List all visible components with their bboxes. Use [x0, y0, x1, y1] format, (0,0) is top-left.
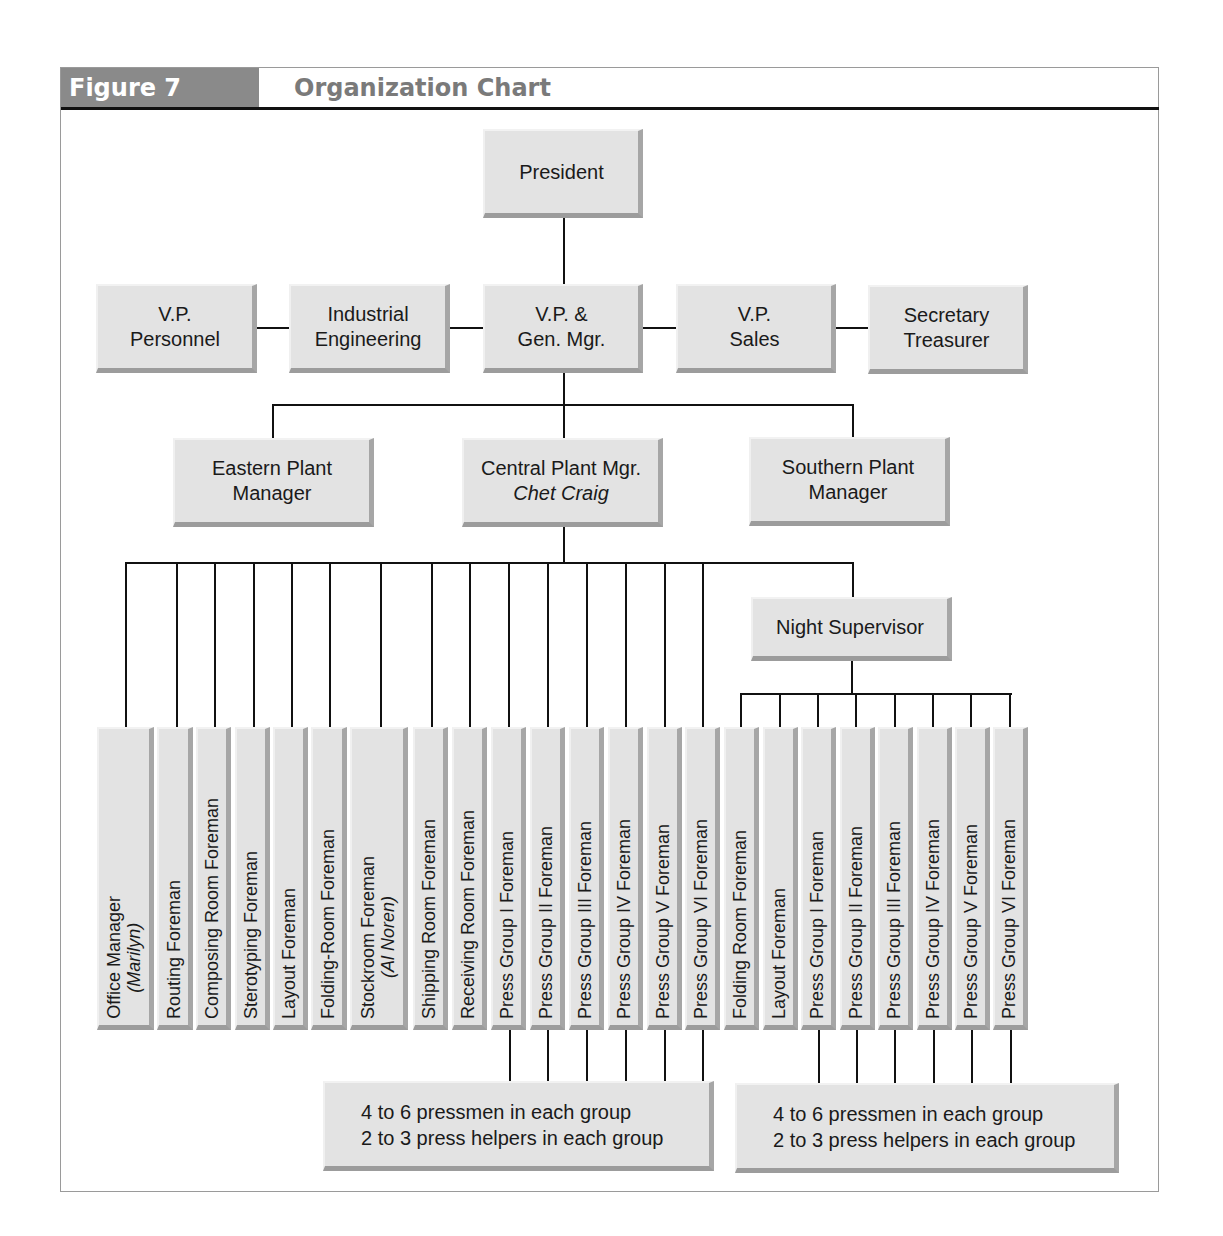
connector-foreman-12 [586, 562, 588, 728]
foreman-label: Press Group I Foreman [497, 831, 517, 1019]
day-press-crew-note: 4 to 6 pressmen in each group2 to 3 pres… [323, 1081, 714, 1171]
night-foreman-box-press-group-5: Press Group V Foreman [955, 727, 990, 1030]
connector-foreman-13 [625, 562, 627, 728]
foreman-box-folding-room: Folding-Room Foreman [311, 727, 347, 1030]
foreman-box-receiving-room: Receiving Room Foreman [452, 727, 487, 1030]
connector-pg3-note [586, 1030, 588, 1082]
header-rule [61, 107, 1159, 110]
night-foreman-label: Press Group II Foreman [846, 826, 866, 1019]
connector-night-foreman-4 [855, 693, 857, 728]
foreman-label: Routing Foreman [164, 880, 184, 1019]
vp-gen-mgr-line1: V.P. & [518, 302, 606, 327]
night-supervisor-box: Night Supervisor [751, 597, 952, 661]
night-foreman-label: Press Group VI Foreman [999, 819, 1019, 1019]
night-foreman-box-folding-room: Folding Room Foreman [724, 727, 759, 1030]
night-foreman-label: Press Group I Foreman [807, 831, 827, 1019]
foreman-label: Press Group IV Foreman [614, 819, 634, 1019]
connector-sales-secretary [836, 327, 868, 329]
connector-foreman-14 [664, 562, 666, 728]
connector-npg5-note [971, 1030, 973, 1083]
foreman-box-composing-room: Composing Room Foreman [196, 727, 231, 1030]
vp-sales-box: V.P.Sales [676, 284, 836, 373]
foreman-box-layout: Layout Foreman [273, 727, 308, 1030]
foreman-box-office-manager: Office Manager(Marilyn) [97, 727, 154, 1030]
connector-eastern [272, 404, 274, 439]
connector-foreman-11 [547, 562, 549, 728]
southern-plant-line2: Manager [782, 480, 914, 505]
connector-vp-plants-stem [563, 373, 565, 439]
night-foreman-box-press-group-1: Press Group I Foreman [801, 727, 836, 1030]
vp-gen-mgr-box: V.P. &Gen. Mgr. [483, 284, 643, 373]
connector-foreman-1 [125, 562, 127, 728]
foreman-title: Office Manager [104, 896, 124, 1019]
industrial-engineering-box: IndustrialEngineering [289, 284, 450, 373]
connector-foreman-15 [702, 562, 704, 728]
foreman-label: Folding-Room Foreman [318, 829, 338, 1019]
southern-plant-box: Southern PlantManager [749, 437, 950, 526]
foreman-box-press-group-1: Press Group I Foreman [491, 727, 526, 1030]
connector-pg5-note [664, 1030, 666, 1082]
connector-npg1-note [818, 1030, 820, 1083]
foreman-label: Press Group V Foreman [653, 824, 673, 1019]
southern-plant-line1: Southern Plant [782, 455, 914, 480]
eastern-plant-line2: Manager [212, 481, 332, 506]
foreman-label: Stockroom Foreman(Al Noren) [358, 856, 398, 1019]
connector-foreman-8 [431, 562, 433, 728]
connector-npg4-note [933, 1030, 935, 1083]
vp-personnel-line1: V.P. [130, 302, 220, 327]
vp-personnel-box: V.P.Personnel [96, 284, 257, 373]
president-box: President [483, 129, 643, 218]
secretary-treasurer-box: SecretaryTreasurer [868, 285, 1028, 374]
foreman-label: Press Group III Foreman [575, 821, 595, 1019]
foreman-box-press-group-5: Press Group V Foreman [647, 727, 682, 1030]
connector-foreman-7 [380, 562, 382, 728]
night-foreman-box-layout: Layout Foreman [763, 727, 798, 1030]
connector-foreman-10 [508, 562, 510, 728]
foreman-label: Receiving Room Foreman [458, 810, 478, 1019]
foreman-label: Press Group VI Foreman [691, 819, 711, 1019]
connector-foremen-bar [125, 562, 854, 564]
foreman-box-stockroom: Stockroom Foreman(Al Noren) [350, 727, 408, 1030]
night-foreman-box-press-group-4: Press Group IV Foreman [917, 727, 952, 1030]
night-foreman-label: Press Group III Foreman [884, 821, 904, 1019]
eastern-plant-line1: Eastern Plant [212, 456, 332, 481]
connector-night-foreman-6 [932, 693, 934, 728]
foreman-person-name: (Al Noren) [378, 856, 398, 1019]
industrial-engineering-line2: Engineering [315, 327, 422, 352]
foreman-label: Press Group II Foreman [536, 826, 556, 1019]
figure-title: Organization Chart [294, 68, 551, 108]
foreman-box-sterotyping: Sterotyping Foreman [235, 727, 270, 1030]
connector-pg6-note [702, 1030, 704, 1082]
night-press-crew-note: 4 to 6 pressmen in each group2 to 3 pres… [735, 1083, 1119, 1173]
foreman-label: Layout Foreman [279, 888, 299, 1019]
figure-number: Figure 7 [61, 68, 259, 108]
connector-night-foreman-7 [970, 693, 972, 728]
connector-night-stem [851, 661, 853, 695]
night-supervisor-label: Night Supervisor [776, 615, 924, 640]
foreman-box-press-group-2: Press Group II Foreman [530, 727, 565, 1030]
secretary-treasurer-line2: Treasurer [904, 328, 990, 353]
foreman-box-press-group-3: Press Group III Foreman [569, 727, 604, 1030]
connector-president-vp [563, 216, 565, 284]
connector-foreman-5 [291, 562, 293, 728]
night-foreman-box-press-group-2: Press Group II Foreman [840, 727, 875, 1030]
connector-foreman-2 [176, 562, 178, 728]
connector-foreman-3 [214, 562, 216, 728]
connector-plants-bar [272, 404, 854, 406]
connector-night-supervisor [852, 562, 854, 598]
night-foreman-label: Layout Foreman [769, 888, 789, 1019]
connector-pg1-note [509, 1030, 511, 1082]
note-line1: 4 to 6 pressmen in each group [773, 1101, 1075, 1127]
connector-pg4-note [625, 1030, 627, 1082]
connector-night-foreman-3 [817, 693, 819, 728]
connector-foreman-6 [329, 562, 331, 728]
connector-night-foreman-2 [779, 693, 781, 728]
foreman-label: Office Manager(Marilyn) [104, 896, 144, 1019]
connector-vp-sales [643, 327, 676, 329]
night-foreman-box-press-group-6: Press Group VI Foreman [993, 727, 1028, 1030]
connector-night-foreman-1 [740, 693, 742, 728]
connector-foreman-4 [253, 562, 255, 728]
note-line1: 4 to 6 pressmen in each group [361, 1099, 663, 1125]
night-foreman-label: Press Group IV Foreman [923, 819, 943, 1019]
connector-foreman-9 [469, 562, 471, 728]
